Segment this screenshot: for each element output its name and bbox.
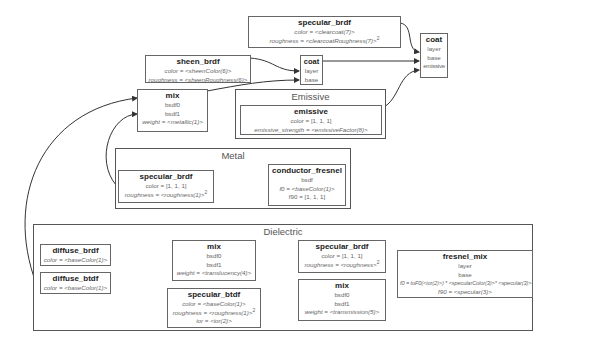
edge-sheen-to-coat-layer	[250, 58, 299, 71]
group-title: Emissive	[236, 91, 385, 102]
node-title: specular_btdf	[170, 290, 258, 300]
node-title: mix	[175, 242, 253, 252]
param-text: roughness = <clearcoatRoughness(7)>	[270, 37, 377, 44]
node-param-roughness: roughness = <roughness(1)>2	[170, 309, 258, 318]
node-title: specular_brdf	[301, 242, 383, 252]
node-coat-sheen[interactable]: coat layer base	[300, 55, 323, 85]
superscript: 2	[377, 35, 380, 41]
node-param-roughness: roughness = <clearcoatRoughness(7)>2	[251, 37, 398, 46]
node-title: emissive	[243, 107, 379, 117]
param-text: roughness = <roughness(1)>	[125, 191, 205, 198]
param-text: ior = <ior(2)>	[196, 317, 232, 324]
node-param-weight: weight = <transmission(5)>	[301, 308, 383, 317]
node-title: diffuse_btdf	[43, 274, 108, 284]
node-param-color: color = <baseColor(1)>	[43, 256, 108, 265]
port-base[interactable]: base	[421, 54, 447, 63]
param-text: weight = <metallic(1)>	[142, 118, 203, 125]
node-param-f0: f0 = toF0(<ior(2)>) * <specularColor(3)>…	[400, 279, 530, 288]
param-text: color = <baseColor(1)>	[44, 256, 107, 263]
port-layer[interactable]: layer	[421, 45, 447, 54]
port-layer[interactable]: layer	[400, 262, 530, 271]
param-text: roughness = <roughness>	[305, 261, 377, 268]
node-title: diffuse_brdf	[43, 246, 108, 256]
node-param-roughness: roughness = <roughness(1)>2	[121, 191, 211, 200]
node-param-ior: ior = <ior(2)>	[170, 317, 258, 326]
node-coat-output[interactable]: coat layer base emissive	[420, 33, 448, 78]
node-emissive[interactable]: emissive color = [1, 1, 1] emissive_stre…	[240, 105, 382, 135]
node-title: mix	[301, 281, 383, 291]
node-param-color: color = <sheenColor(6)>	[148, 67, 248, 76]
node-diffuse-brdf[interactable]: diffuse_brdf color = <baseColor(1)>	[40, 244, 111, 266]
edge-clearcoat-to-coat-layer	[400, 23, 419, 52]
node-title: sheen_brdf	[148, 57, 248, 67]
node-param-f90: f90 = [1, 1, 1]	[271, 193, 343, 202]
node-param-color: color = [1, 1, 1]	[243, 117, 379, 126]
param-text: color = <sheenColor(6)>	[165, 67, 232, 74]
port-bsdf1[interactable]: bsdf1	[301, 300, 383, 309]
superscript: 2	[377, 259, 380, 265]
group-title: Dielectric	[34, 226, 532, 237]
node-title: mix	[140, 91, 205, 101]
param-text: weight = <transmission(5)>	[305, 308, 379, 315]
node-param-color: color = <baseColor(1)>	[170, 300, 258, 309]
node-param-weight: weight = <translucency(4)>	[175, 269, 253, 278]
node-title: conductor_fresnel	[271, 166, 343, 176]
port-bsdf[interactable]: bsdf	[271, 176, 343, 185]
param-text: color = <baseColor(1)>	[44, 284, 107, 291]
param-text: color = <baseColor(1)>	[182, 300, 245, 307]
param-text: f0 = toF0(<ior(2)>) * <specularColor(3)>…	[400, 280, 531, 286]
node-param-strength: emissive_strength = <emissiveFactor(8)>	[243, 126, 379, 135]
node-param-color: color = <baseColor(1)>	[43, 284, 108, 293]
node-specular-brdf-dielectric[interactable]: specular_brdf color = [1, 1, 1] roughnes…	[298, 240, 386, 273]
port-bsdf0[interactable]: bsdf0	[140, 101, 205, 110]
param-text: roughness = <sheenRoughness(6)>	[149, 76, 248, 83]
node-conductor-fresnel[interactable]: conductor_fresnel bsdf f0 = <baseColor(1…	[268, 164, 346, 206]
param-text: color = <clearcoat(7)>	[294, 28, 354, 35]
node-title: specular_brdf	[121, 172, 211, 182]
node-title: specular_brdf	[251, 18, 398, 28]
node-param-roughness: roughness = <roughness>2	[301, 261, 383, 270]
node-title: coat	[301, 57, 322, 67]
param-text: f0 = <baseColor(1)>	[279, 185, 334, 192]
port-bsdf1[interactable]: bsdf1	[175, 261, 253, 270]
node-specular-btdf[interactable]: specular_btdf color = <baseColor(1)> rou…	[167, 288, 261, 328]
node-specular-brdf-metal[interactable]: specular_brdf color = [1, 1, 1] roughnes…	[118, 170, 214, 203]
superscript: 2	[204, 189, 207, 195]
node-title: coat	[421, 35, 447, 45]
node-param-roughness: roughness = <sheenRoughness(6)>	[148, 76, 248, 85]
port-base[interactable]: base	[301, 76, 322, 85]
port-bsdf1[interactable]: bsdf1	[140, 110, 205, 119]
param-text: weight = <translucency(4)>	[177, 269, 251, 276]
node-param-weight: weight = <metallic(1)>	[140, 118, 205, 127]
port-base[interactable]: base	[400, 271, 530, 280]
node-sheen-brdf[interactable]: sheen_brdf color = <sheenColor(6)> rough…	[145, 55, 251, 83]
node-title: fresnel_mix	[400, 252, 530, 262]
node-mix-transmission[interactable]: mix bsdf0 bsdf1 weight = <transmission(5…	[298, 279, 386, 321]
node-mix-metallic[interactable]: mix bsdf0 bsdf1 weight = <metallic(1)>	[137, 89, 208, 132]
edge-emissive-to-coat-emissive	[382, 70, 419, 108]
node-param-f90: f90 = <specular(3)>	[400, 288, 530, 297]
group-title: Metal	[116, 150, 350, 161]
node-diffuse-btdf[interactable]: diffuse_btdf color = <baseColor(1)>	[40, 272, 111, 294]
port-emissive[interactable]: emissive	[421, 62, 447, 71]
node-mix-translucency[interactable]: mix bsdf0 bsdf1 weight = <translucency(4…	[172, 240, 256, 281]
param-text: roughness = <roughness(1)>	[173, 309, 253, 316]
node-param-f0: f0 = <baseColor(1)>	[271, 185, 343, 194]
node-fresnel-mix[interactable]: fresnel_mix layer base f0 = toF0(<ior(2)…	[397, 250, 533, 298]
port-bsdf0[interactable]: bsdf0	[175, 252, 253, 261]
param-text: emissive_strength = <emissiveFactor(8)>	[254, 126, 367, 133]
node-specular-brdf-clearcoat[interactable]: specular_brdf color = <clearcoat(7)> rou…	[248, 16, 401, 48]
port-bsdf0[interactable]: bsdf0	[301, 291, 383, 300]
port-layer[interactable]: layer	[301, 67, 322, 76]
node-param-color: color = [1, 1, 1]	[301, 252, 383, 261]
node-param-color: color = [1, 1, 1]	[121, 182, 211, 191]
param-text: f90 = <specular(3)>	[438, 288, 492, 295]
superscript: 2	[252, 307, 255, 313]
